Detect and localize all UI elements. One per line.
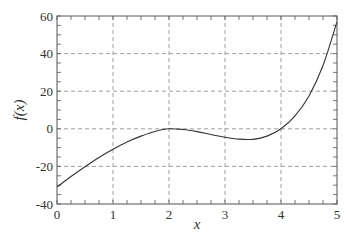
x-tick-label: 3 [222,207,229,222]
y-axis-label: f(x) [11,100,28,121]
y-tick-label: 60 [40,9,53,24]
plot-frame [57,16,337,204]
y-tick-label: -20 [36,159,53,174]
x-axis-label: x [193,216,201,232]
x-tick-label: 4 [278,207,285,222]
y-tick-label: 20 [40,84,53,99]
grid-lines [57,16,337,204]
x-tick-label: 5 [334,207,341,222]
x-tick-label: 0 [54,207,61,222]
x-tick-label: 2 [166,207,173,222]
y-tick-label: -40 [36,197,53,212]
y-tick-label: 40 [40,46,53,61]
minor-ticks [57,16,337,204]
line-chart: 012345 -40-200204060 x f(x) [0,0,354,237]
y-tick-labels: -40-200204060 [36,9,53,212]
x-tick-label: 1 [110,207,117,222]
data-line [57,22,337,187]
y-tick-label: 0 [47,121,54,136]
